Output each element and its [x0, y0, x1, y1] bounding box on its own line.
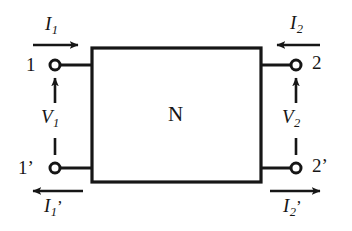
current-symbol-i2-prime: I	[283, 195, 289, 216]
voltage-subscript-v1: 1	[53, 116, 59, 130]
current-subscript-i1: 1	[52, 23, 58, 37]
current-label-i2-prime: I2’	[283, 196, 301, 215]
current-label-i2: I2	[290, 13, 303, 32]
two-port-network-figure: N 1 2 1’ 2’ I1 I2 I1’ I2’ V1 V2	[0, 0, 352, 231]
terminal-node-2	[291, 60, 301, 70]
current-symbol-i1-prime: I	[44, 195, 50, 216]
current-subscript-i2: 2	[297, 22, 303, 36]
voltage-symbol-v2: V	[282, 106, 294, 127]
terminal-label-2: 2	[312, 53, 322, 72]
current-label-i1: I1	[45, 14, 58, 33]
current-prime-mark-i2: ’	[296, 197, 302, 216]
voltage-subscript-v2: 2	[294, 116, 300, 130]
terminal-node-1	[50, 60, 60, 70]
terminal-label-1: 1	[26, 55, 36, 74]
voltage-label-v1: V1	[41, 107, 59, 126]
terminal-label-2-prime: 2’	[312, 156, 328, 175]
terminal-node-1p	[50, 163, 60, 173]
voltage-label-v2: V2	[282, 107, 300, 126]
current-label-i1-prime: I1’	[44, 196, 62, 215]
current-prime-mark-i1: ’	[57, 197, 63, 216]
current-symbol-i1: I	[45, 13, 51, 34]
terminal-label-1-prime: 1’	[18, 158, 34, 177]
voltage-symbol-v1: V	[41, 106, 53, 127]
current-symbol-i2: I	[290, 12, 296, 33]
network-label: N	[168, 104, 183, 125]
terminal-node-2p	[291, 163, 301, 173]
